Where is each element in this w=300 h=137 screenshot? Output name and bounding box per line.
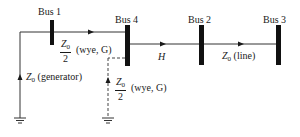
h-label: H [158, 52, 165, 62]
bus3-label: Bus 3 [263, 15, 286, 25]
bus1-label: Bus 1 [38, 7, 61, 17]
bus3-bar [276, 25, 281, 65]
bus4-bar [125, 25, 130, 66]
bus1-bar [50, 20, 54, 45]
diagram-canvas [0, 0, 300, 137]
transformer2-note: (wye, G) [131, 83, 167, 93]
generator-label: Z0 (generator) [26, 72, 82, 84]
line-arrow-icon [238, 42, 244, 47]
transformer1-fraction: Z0 2 [60, 39, 71, 64]
generator-arrow-icon [18, 74, 23, 80]
transformer1-note: (wye, G) [76, 45, 112, 55]
bus4-label: Bus 4 [115, 15, 138, 25]
bus1-bus4-arrow-icon [88, 30, 94, 35]
h-arrow-icon [160, 42, 166, 47]
line-label: Z0 (line) [222, 51, 255, 63]
transformer2-arrow-icon [106, 77, 111, 83]
ground-icon [102, 118, 114, 123]
bus2-label: Bus 2 [188, 15, 211, 25]
ground-icon [14, 118, 26, 123]
transformer2-fraction: Z0 2 [115, 77, 126, 102]
bus2-bar [199, 25, 204, 65]
